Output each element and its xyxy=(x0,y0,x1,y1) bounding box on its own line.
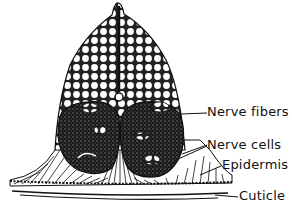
label-epidermis: Epidermis xyxy=(222,157,288,172)
label-nerve-cells: Nerve cells xyxy=(207,137,281,152)
label-cuticle: Cuticle xyxy=(239,188,285,203)
label-nerve-fibers: Nerve fibers xyxy=(207,104,289,119)
diagram-canvas: Nerve fibers Nerve cells Epidermis Cutic… xyxy=(0,0,292,207)
cuticle-layer xyxy=(12,191,228,199)
